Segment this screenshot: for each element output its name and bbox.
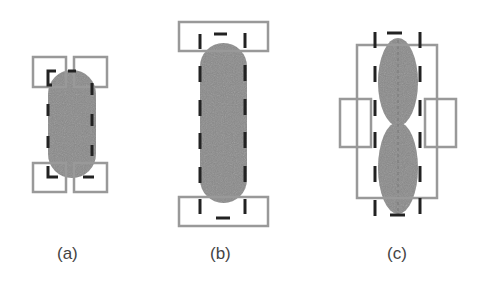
panel-c-label: (c) (387, 244, 407, 264)
panel-c (340, 32, 456, 216)
panel-b (179, 22, 268, 226)
capsule-shape (200, 43, 247, 203)
panel-b-label: (b) (210, 244, 231, 264)
panel-a-label: (a) (57, 244, 78, 264)
panel-a (33, 57, 107, 192)
